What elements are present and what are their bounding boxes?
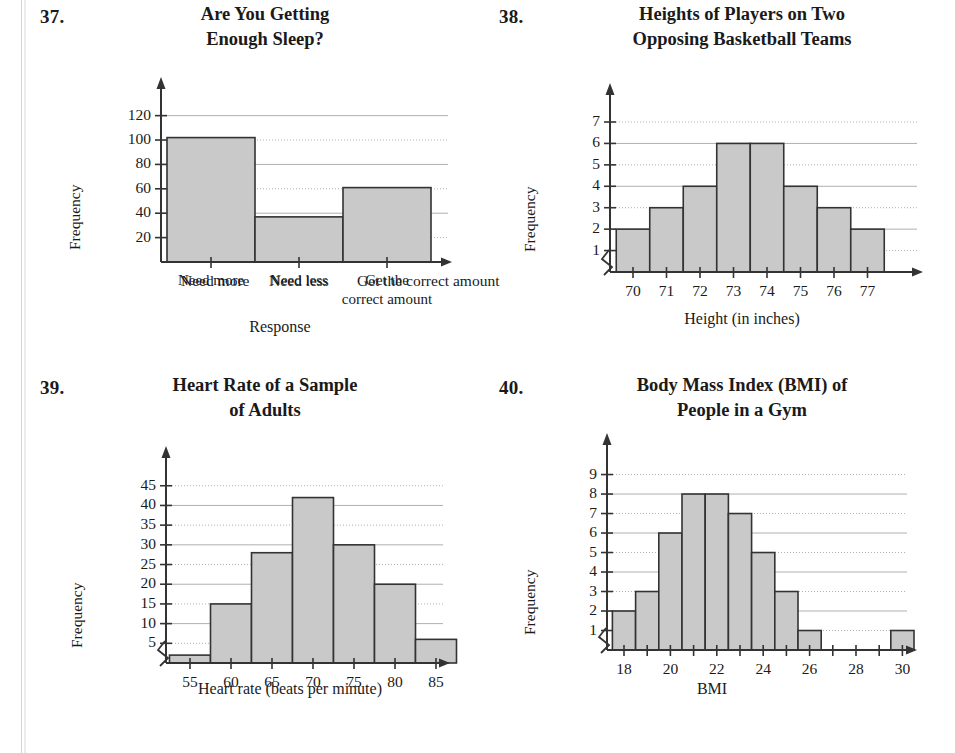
- exercise-39: 39. Heart Rate of a Sample of Adults 510…: [0, 360, 478, 753]
- y-tick-label: 3: [545, 582, 597, 600]
- x-category-label-line: correct amount: [317, 290, 457, 309]
- y-tick-label: 80: [99, 154, 151, 172]
- y-tick-label: 20: [104, 574, 156, 592]
- y-tick-label: 2: [548, 219, 600, 237]
- y-tick-label: 1: [548, 241, 600, 259]
- x-tick-label: 30: [872, 660, 932, 678]
- y-tick-label: 30: [104, 535, 156, 553]
- histogram-38: 12345677071727374757677FrequencyHeight (…: [477, 0, 955, 360]
- x-axis-label: Response: [170, 318, 390, 336]
- y-axis-label: Frequency: [521, 187, 539, 252]
- histogram-39: 5101520253035404555606570758085Frequency…: [0, 360, 478, 753]
- exercise-40: 40. Body Mass Index (BMI) of People in a…: [477, 360, 955, 753]
- x-axis-label: Heart rate (beats per minute): [140, 680, 440, 698]
- exercise-37: 37. Are You Getting Enough Sleep? 204060…: [0, 0, 478, 360]
- exercise-38: 38. Heights of Players on Two Opposing B…: [477, 0, 955, 360]
- y-tick-label: 45: [104, 476, 156, 494]
- y-tick-label: 6: [545, 523, 597, 541]
- y-axis-label: Frequency: [521, 570, 539, 635]
- x-category-label-line: Get the: [317, 271, 457, 290]
- y-tick-label: 4: [545, 562, 597, 580]
- y-tick-label: 100: [99, 130, 151, 148]
- y-tick-label: 7: [545, 504, 597, 522]
- y-axis-label: Frequency: [68, 583, 86, 648]
- x-category-label: Get thecorrect amount: [317, 271, 457, 309]
- y-tick-label: 10: [104, 614, 156, 632]
- y-tick-label: 15: [104, 594, 156, 612]
- x-axis-label: Height (in inches): [617, 310, 867, 328]
- y-tick-label: 5: [104, 633, 156, 651]
- y-tick-label: 40: [99, 203, 151, 221]
- y-tick-label: 7: [548, 112, 600, 130]
- y-tick-label: 2: [545, 601, 597, 619]
- y-tick-label: 20: [99, 228, 151, 246]
- y-tick-label: 4: [548, 176, 600, 194]
- y-tick-label: 5: [548, 155, 600, 173]
- y-tick-label: 35: [104, 515, 156, 533]
- y-tick-label: 8: [545, 484, 597, 502]
- y-tick-label: 1: [545, 621, 597, 639]
- histogram-37: 20406080100120Need moreNeed lessGet the …: [0, 0, 478, 360]
- x-tick-label: 77: [838, 282, 898, 300]
- y-tick-label: 9: [545, 465, 597, 483]
- y-tick-label: 6: [548, 133, 600, 151]
- y-tick-label: 25: [104, 555, 156, 573]
- y-tick-label: 3: [548, 198, 600, 216]
- y-tick-label: 60: [99, 179, 151, 197]
- histogram-40: 12345678918202224262830FrequencyBMI: [477, 360, 955, 753]
- y-tick-label: 40: [104, 495, 156, 513]
- x-axis-label: BMI: [652, 680, 772, 698]
- y-axis-label: Frequency: [66, 185, 84, 250]
- y-tick-label: 5: [545, 543, 597, 561]
- y-tick-label: 120: [99, 106, 151, 124]
